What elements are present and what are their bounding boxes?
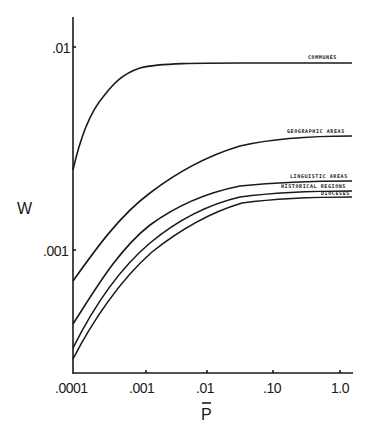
- x-tick-label-001: .001: [129, 380, 155, 396]
- y-axis-title: W: [17, 200, 33, 217]
- curve-linguistic-areas: [73, 181, 352, 324]
- y-tick-label-01: .01: [52, 40, 71, 56]
- chart-canvas: .01 .001 .0001 .001 .01 .10 1.0 W P COMM…: [0, 0, 371, 433]
- label-linguistic-areas: LINGUISTIC AREAS: [290, 173, 348, 179]
- curve-geographic-areas: [73, 136, 352, 281]
- label-historical-regions: HISTORICAL REGIONS: [281, 183, 346, 189]
- label-geographic-areas: GEOGRAPHIC AREAS: [287, 128, 345, 134]
- y-tick-label-001: .001: [43, 243, 69, 259]
- curve-communes: [73, 63, 352, 170]
- x-tick-label-0001: .0001: [55, 380, 88, 396]
- label-communes: COMMUNES: [308, 54, 337, 60]
- x-tick-label-10: .10: [263, 380, 282, 396]
- curve-dioceses: [73, 197, 352, 359]
- x-tick-label-01: .01: [196, 380, 215, 396]
- x-axis-title: P: [201, 406, 212, 423]
- x-tick-label-1: 1.0: [331, 380, 350, 396]
- label-dioceses: DIOCESES: [321, 190, 350, 196]
